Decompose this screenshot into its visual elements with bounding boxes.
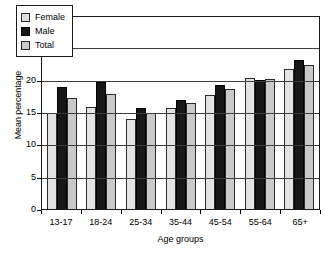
bar-total-65+	[304, 65, 314, 209]
x-tick-label: 25-34	[121, 217, 161, 227]
y-tick-label: 15	[14, 108, 36, 117]
bar-total-13-17	[67, 98, 77, 209]
bar-male-13-17	[57, 87, 67, 209]
bar-total-55-64	[265, 79, 275, 209]
legend-swatch-icon	[21, 13, 30, 22]
x-tick-label: 65+	[280, 217, 320, 227]
y-tick-label: 20	[14, 76, 36, 85]
gridline	[42, 48, 319, 49]
x-tick-label: 45-54	[200, 217, 240, 227]
bar-female-55-64	[245, 78, 255, 209]
bar-total-35-44	[186, 103, 196, 209]
x-tick-mark	[121, 210, 122, 214]
legend-swatch-icon	[21, 41, 30, 50]
x-tick-mark	[81, 210, 82, 214]
x-tick-label: 13-17	[41, 217, 81, 227]
bar-male-25-34	[136, 108, 146, 209]
legend-item-female: Female	[21, 10, 65, 24]
bar-female-18-24	[86, 107, 96, 209]
legend-label: Female	[35, 13, 65, 22]
bar-female-25-34	[126, 119, 136, 209]
bar-total-45-54	[225, 89, 235, 209]
gridline	[42, 145, 319, 146]
legend-swatch-icon	[21, 27, 30, 36]
bar-female-35-44	[166, 108, 176, 209]
gridline	[42, 81, 319, 82]
y-tick-label: 10	[14, 140, 36, 149]
x-tick-mark	[161, 210, 162, 214]
y-tick-label: 5	[14, 173, 36, 182]
bar-total-18-24	[106, 94, 116, 209]
bar-male-35-44	[176, 100, 186, 209]
gridline	[42, 178, 319, 179]
bar-total-25-34	[146, 113, 156, 209]
bar-chart-figure: Mean percentage 051015202530 13-1718-242…	[0, 0, 325, 254]
bar-female-65+	[284, 69, 294, 209]
gridline	[42, 113, 319, 114]
legend-item-total: Total	[21, 38, 65, 52]
x-axis-labels: 13-1718-2425-3435-4445-5455-6465+	[41, 217, 320, 227]
legend-item-male: Male	[21, 24, 65, 38]
chart-legend: FemaleMaleTotal	[16, 5, 73, 57]
x-tick-mark	[280, 210, 281, 214]
x-tick-mark	[320, 210, 321, 214]
x-tick-mark	[240, 210, 241, 214]
legend-label: Male	[35, 27, 55, 36]
bar-male-65+	[294, 60, 304, 209]
y-tick-label: 0	[14, 205, 36, 214]
x-axis-title: Age groups	[41, 234, 320, 244]
plot-area	[41, 16, 320, 210]
bar-male-45-54	[215, 85, 225, 209]
x-tick-label: 55-64	[240, 217, 280, 227]
x-tick-label: 18-24	[81, 217, 121, 227]
x-tick-mark	[41, 210, 42, 214]
x-axis-ticks	[41, 210, 320, 216]
legend-label: Total	[35, 41, 54, 50]
bar-female-13-17	[47, 113, 57, 209]
x-tick-label: 35-44	[161, 217, 201, 227]
x-tick-mark	[200, 210, 201, 214]
